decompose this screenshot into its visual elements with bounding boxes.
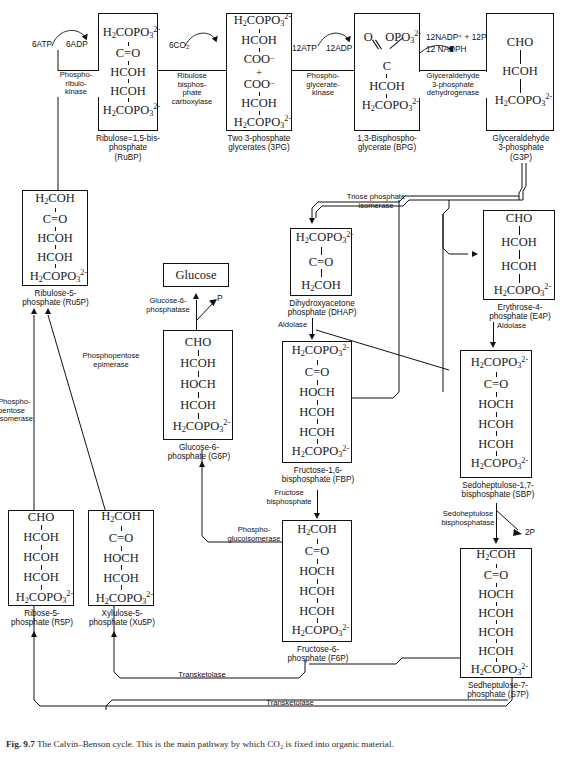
caption-g6p: Glucose-6- phosphate (G6P) <box>155 443 243 462</box>
cofactor-12nadph: 12 NADPH <box>426 45 467 55</box>
enzyme-aldolase-2: Aldolase <box>497 322 541 331</box>
formula-bpg: O OPO32- C HCOH H2COPO32- <box>360 31 415 114</box>
formula-dhap: H2COPO32- C=O H2COH <box>296 231 347 292</box>
arrow-head-s7p <box>493 538 499 544</box>
box-s7p: H2COH C=O HOCH HCOH HCOH HCOH H2COPO32- <box>460 548 532 678</box>
figure-caption: Fig. 9.7 The Calvin–Benson cycle. This i… <box>6 739 568 757</box>
caption-fbp: Fructose-1,6- bisphosphate (FBP) <box>274 466 362 485</box>
formula-r5p: CHO HCOH HCOH HCOH H2COPO32- <box>16 511 67 605</box>
caption-sbp: Sedoheptulose-1,7- bisphosphate (SBP) <box>452 481 544 500</box>
calvin-cycle-diagram: H2COPO32- C=O HCOH HCOH H2COPO32- Ribulo… <box>0 0 573 757</box>
caption-r5p: Ribose-5- phosphate (R5P) <box>0 609 84 628</box>
cofactor-12nadp: 12NADP⁺ + 12P <box>426 33 487 43</box>
box-3pg: H2COPO32- HCOH COO– + COO– HCOH H2COPO32… <box>226 13 292 131</box>
arrow-head-e4p <box>472 251 478 257</box>
figure-number: Fig. 9.7 <box>6 739 35 749</box>
caption-g3p: Glyceraldehyde 3-phosphate (G3P) <box>478 134 564 162</box>
formula-g3p: CHO HCOH H2COPO32- <box>495 36 546 108</box>
enzyme-aldolase-1: Aldolase <box>278 321 320 330</box>
arrow-head-dhap <box>309 218 315 224</box>
formula-ru5p: H2COH C=O HCOH HCOH H2COPO32- <box>30 192 81 283</box>
arrow-head-ru5p-epi <box>45 308 51 314</box>
formula-sbp: H2COPO32- C=O HOCH HCOH HCOH H2COPO32- <box>471 356 522 471</box>
formula-f6p: H2COH C=O HOCH HCOH HCOH H2COPO32- <box>292 523 343 638</box>
cofactor-2p: 2P <box>525 528 535 538</box>
enzyme-phosphoglucoisomerase: Phospho- glucoisomerase <box>222 526 286 543</box>
arrow-head-xu5p <box>111 631 117 637</box>
arrow-head-g6p <box>199 461 205 467</box>
caption-ru5p: Ribulose-5- phosphate (Ru5P) <box>8 289 103 308</box>
figure-caption-text: The Calvin–Benson cycle. This is the mai… <box>37 739 394 749</box>
enzyme-transketolase-2: Transketolase <box>248 699 332 708</box>
arrow-head-r5p <box>31 631 37 637</box>
formula-3pg: H2COPO32- HCOH COO– + COO– HCOH H2COPO32… <box>234 14 285 130</box>
enzyme-triose-phosphate-isomerase: Triose phosphate isomerase <box>330 193 422 210</box>
cofactor-6atp: 6ATP <box>32 40 52 50</box>
formula-g6p: CHO HCOH HOCH HCOH H2COPO32- <box>173 336 224 434</box>
enzyme-transketolase-1: Transketolase <box>160 671 244 680</box>
caption-dhap: Dihydroxyacetone phosphate (DHAP) <box>281 299 363 318</box>
enzyme-phosphoribulokinase: Phospho- ribulo- kinase <box>48 71 104 97</box>
arrow-head-f6p <box>314 513 320 519</box>
label-glucose: Glucose <box>176 269 217 282</box>
formula-rubp: H2COPO32- C=O HCOH HCOH H2COPO32- <box>103 26 154 117</box>
enzyme-phosphopentose-epimerase: Phosphopentose epimerase <box>74 352 148 369</box>
box-fbp: H2COPO32- C=O HOCH HCOH HCOH H2COPO32- <box>282 341 352 463</box>
box-bpg: O OPO32- C HCOH H2COPO32- <box>354 13 420 131</box>
arrow-line-g6pase <box>196 300 197 330</box>
arrow-head-adp12b <box>345 34 353 42</box>
box-sbp: H2COPO32- C=O HOCH HCOH HCOH H2COPO32- <box>460 350 532 478</box>
cofactor-6co2: 6CO₂ <box>169 41 189 51</box>
enzyme-sedoheptulose-bisphosphatase: Sedoheptulose bisphosphatase <box>436 510 500 527</box>
arrow-head-sbp <box>490 342 496 348</box>
formula-fbp: H2COPO32- C=O HOCH HCOH HCOH H2COPO32- <box>292 344 343 459</box>
caption-e4p: Erythrose-4- phosphate (E4P) <box>476 303 564 322</box>
box-dhap: H2COPO32- C=O H2COH <box>290 228 352 296</box>
arrow-head-fbp <box>309 334 315 340</box>
cofactor-6adp: 6ADP <box>66 40 88 50</box>
enzyme-phosphoglycerate-kinase: Phospho- glycerate- kinase <box>292 72 354 98</box>
enzyme-rubisco: Ribulose bisphos- phate carboxylase <box>161 72 223 106</box>
cofactor-12atp: 12ATP <box>292 44 317 54</box>
enzyme-glucose-6-phosphatase: Glucose-6- phosphatase <box>140 297 196 314</box>
caption-f6p: Fructose-6- phosphate (F6P) <box>274 645 362 664</box>
box-r5p: CHO HCOH HCOH HCOH H2COPO32- <box>8 510 74 606</box>
formula-e4p: CHO HCOH HCOH H2COPO32- <box>494 212 545 298</box>
box-f6p: H2COH C=O HOCH HCOH HCOH H2COPO32- <box>282 520 352 642</box>
caption-rubp: Ribulose=1,5-bis- phosphate (RuBP) <box>86 134 170 162</box>
caption-s7p: Sedheptulose-7- phosphate (S7P) <box>452 681 544 700</box>
box-xu5p: H2COH C=O HOCH HCOH H2COPO32- <box>88 510 154 606</box>
caption-xu5p: Xylulose-5- phosphate (Xu5P) <box>80 609 164 628</box>
box-ru5p: H2COH C=O HCOH HCOH H2COPO32- <box>22 190 88 286</box>
enzyme-phosphopentose-isomerase: Phospho- pentose isomerase <box>0 398 54 424</box>
formula-xu5p: H2COH C=O HOCH HCOH H2COPO32- <box>96 510 147 605</box>
caption-bpg: 1,3-Bisphospho- glycerate (BPG) <box>341 134 433 153</box>
arrow-head-adp12 <box>212 34 220 42</box>
cofactor-p-glucose: P <box>217 294 223 304</box>
box-rubp: H2COPO32- C=O HCOH HCOH H2COPO32- <box>98 13 158 131</box>
box-e4p: CHO HCOH HCOH H2COPO32- <box>483 210 555 300</box>
arrow-head-ru5p-iso <box>31 308 37 314</box>
enzyme-fructose-bisphosphatase: Fructose bisphosphate <box>260 489 318 506</box>
box-glucose: Glucose <box>163 263 229 287</box>
box-g3p: CHO HCOH H2COPO32- <box>486 13 554 131</box>
caption-3pg: Two 3-phosphate glycerates (3PG) <box>213 134 305 153</box>
formula-s7p: H2COH C=O HOCH HCOH HCOH HCOH H2COPO32- <box>471 548 522 677</box>
box-g6p: CHO HCOH HOCH HCOH H2COPO32- <box>163 330 233 440</box>
cofactor-12adp: 12ADP <box>326 44 352 54</box>
enzyme-gapdh: Glyceraldehyde 3-phosphate dehydrogenase <box>417 72 489 98</box>
